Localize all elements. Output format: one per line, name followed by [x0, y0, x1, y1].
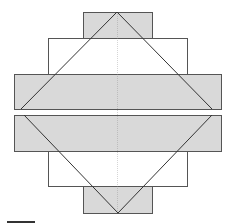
- top-block: [84, 13, 153, 39]
- upper-middle-block: [49, 39, 188, 75]
- upper-wide-block: [15, 75, 222, 110]
- lower-wide-block: [15, 116, 222, 152]
- lower-middle-block: [49, 152, 188, 187]
- pyramid-diagram: [0, 0, 233, 223]
- bottom-block: [84, 187, 153, 214]
